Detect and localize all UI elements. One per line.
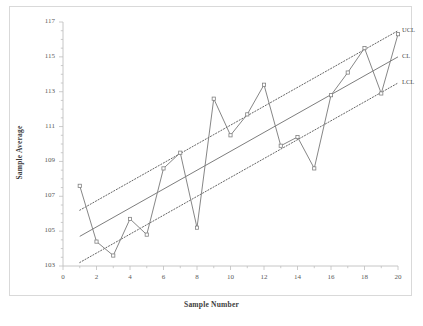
- y-tick-label: 109: [29, 156, 55, 164]
- x-tick-label: 8: [187, 273, 207, 281]
- y-tick-label: 103: [29, 261, 55, 269]
- y-axis-title: Sample Average: [15, 98, 24, 208]
- x-tick-label: 4: [120, 273, 140, 281]
- x-tick-label: 14: [288, 273, 308, 281]
- y-tick-label: 117: [29, 17, 55, 25]
- x-tick-label: 18: [355, 273, 375, 281]
- control-limit-label-lcl: LCL: [402, 78, 414, 85]
- x-tick-label: 6: [154, 273, 174, 281]
- chart-frame: [9, 6, 412, 296]
- y-tick-label: 111: [29, 122, 55, 130]
- y-tick-label: 107: [29, 191, 55, 199]
- x-tick-label: 16: [321, 273, 341, 281]
- control-limit-label-ucl: UCL: [402, 26, 415, 33]
- x-tick-label: 20: [388, 273, 408, 281]
- x-tick-label: 0: [53, 273, 73, 281]
- x-tick-label: 10: [221, 273, 241, 281]
- x-tick-label: 2: [87, 273, 107, 281]
- x-tick-label: 12: [254, 273, 274, 281]
- y-tick-label: 115: [29, 52, 55, 60]
- y-tick-label: 105: [29, 226, 55, 234]
- y-tick-label: 113: [29, 87, 55, 95]
- control-limit-label-cl: CL: [402, 52, 410, 59]
- x-axis-title: Sample Number: [0, 300, 423, 309]
- control-chart-page: 103105107109111113115117 024681012141618…: [0, 0, 423, 326]
